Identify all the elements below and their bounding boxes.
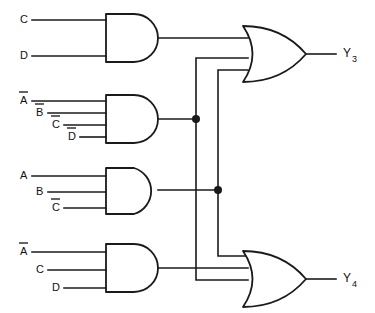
input-label-b-gate3: B [36, 185, 43, 197]
input-label-a-bar-gate4: A [20, 245, 28, 257]
output-label-y3: Y 3 [343, 46, 357, 64]
input-label-d-bar-gate2: D [68, 130, 76, 142]
wire-and3-to-or2 [218, 190, 248, 256]
input-label-a-bar-gate2: A [20, 94, 28, 106]
input-label-c-gate1: C [20, 13, 28, 25]
input-label-d-gate4: D [52, 281, 60, 293]
and-gate-3-body [106, 168, 151, 214]
and-gate-4 [32, 244, 248, 292]
junction-and3-out [214, 186, 222, 194]
input-label-c-bar-gate2: C [52, 118, 60, 130]
or-gate-1-body [243, 26, 306, 82]
circuit-canvas: C D A B C D A B C A C D Y 3 Y 4 [0, 0, 375, 313]
or-gate-1 [243, 26, 336, 82]
input-label-a-gate3: A [20, 169, 28, 181]
and-gate-2-body [106, 95, 158, 143]
input-label-c-gate4: C [36, 263, 44, 275]
and-gate-1 [32, 14, 248, 62]
input-label-b-bar-gate2: B [36, 106, 43, 118]
or-gate-2-body [243, 251, 306, 307]
junction-and2-out [192, 115, 200, 123]
output-label-y4: Y 4 [343, 271, 357, 289]
input-label-d-gate1: D [20, 49, 28, 61]
output-label-y4-base: Y [343, 271, 351, 285]
output-label-y3-subscript: 3 [352, 54, 357, 64]
output-label-y3-base: Y [343, 46, 351, 60]
and-gate-1-body [106, 14, 158, 62]
output-label-y4-subscript: 4 [352, 279, 357, 289]
and-gate-4-body [106, 244, 158, 292]
or-gate-2 [243, 251, 336, 307]
wire-and3-to-or1 [218, 70, 248, 190]
logic-circuit-diagram: C D A B C D A B C A C D Y 3 Y 4 [0, 0, 375, 313]
wire-and2-to-or1 [196, 58, 248, 119]
input-label-c-bar-gate3: C [52, 201, 60, 213]
